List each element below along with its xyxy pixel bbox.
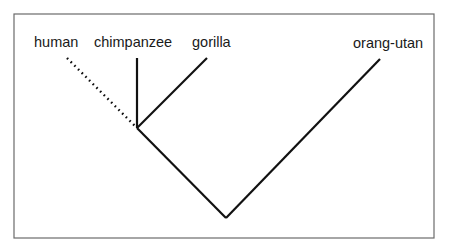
- leaf-label-orang-utan: orang-utan: [353, 35, 423, 51]
- leaf-label-gorilla: gorilla: [192, 34, 232, 50]
- branch-human: [67, 58, 136, 127]
- branch-orang-utan: [226, 59, 380, 218]
- branch-root-to-african-apes: [137, 128, 226, 218]
- leaf-label-chimpanzee: chimpanzee: [94, 34, 172, 50]
- leaf-label-human: human: [34, 34, 78, 50]
- branch-gorilla: [137, 58, 207, 128]
- phylogenetic-tree-diagram: human chimpanzee gorilla orang-utan: [0, 0, 450, 249]
